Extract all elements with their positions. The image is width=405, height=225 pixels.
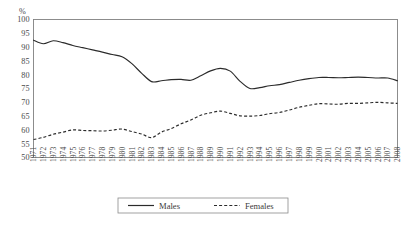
x-axis-tick-label: 1981	[128, 147, 137, 162]
plot-area-frame	[34, 20, 398, 158]
x-axis-tick-label: 1986	[177, 147, 186, 162]
x-axis-tick-label: 1974	[59, 147, 68, 162]
y-axis-tick-label: 75	[21, 84, 29, 93]
y-axis-tick-label: 100	[17, 15, 29, 24]
x-axis-tick-label: 2007	[383, 147, 392, 162]
legend-label-males: Males	[159, 201, 181, 211]
x-axis-tick-label: 1996	[275, 147, 284, 162]
x-axis-tick-label: 1971	[29, 147, 38, 162]
x-axis-tick-label: 1980	[118, 147, 127, 162]
x-axis-tick-label: 2003	[344, 147, 353, 162]
chart-legend: MalesFemales	[118, 198, 288, 213]
x-axis-tick-label: 1979	[108, 147, 117, 162]
x-axis-tick-label: 2000	[315, 147, 324, 162]
x-axis-tick-labels: 1971197219731974197519761977197819791980…	[29, 147, 402, 162]
legend-label-females: Females	[245, 201, 274, 211]
x-axis-tick-label: 1977	[88, 147, 97, 162]
chart-container: 50556065707580859095100 1971197219731974…	[0, 0, 405, 225]
x-axis-tick-label: 2005	[364, 147, 373, 162]
x-axis-tick-label: 1993	[246, 147, 255, 162]
y-axis-tick-label: 95	[21, 29, 29, 38]
x-axis-tick-label: 1978	[98, 147, 107, 162]
x-axis-tick-label: 2008	[393, 147, 402, 162]
y-axis-tick-label: 70	[21, 98, 29, 107]
x-axis-tick-label: 1982	[137, 147, 146, 162]
y-axis-tick-label: 80	[21, 71, 29, 80]
x-axis-tick-label: 2002	[334, 147, 343, 162]
x-axis-tick-label: 1975	[69, 147, 78, 162]
x-axis-tick-label: 1998	[295, 147, 304, 162]
x-axis-tick-label: 1983	[147, 147, 156, 162]
y-axis-tick-label: 60	[21, 126, 29, 135]
x-axis-tick-label: 1973	[49, 147, 58, 162]
x-axis-tick-label: 1995	[265, 147, 274, 162]
x-axis-tick-label: 1985	[167, 147, 176, 162]
x-axis-tick-label: 1992	[236, 147, 245, 162]
x-axis-tick-label: 1997	[285, 147, 294, 162]
x-axis-tick-label: 1976	[78, 147, 87, 162]
x-axis-tick-label: 1988	[196, 147, 205, 162]
y-axis-tick-label: 85	[21, 57, 29, 66]
x-axis-tick-label: 1987	[187, 147, 196, 162]
x-axis-tick-label: 1984	[157, 147, 166, 162]
y-axis-unit-label: %	[19, 7, 26, 16]
x-axis-tick-label: 2006	[374, 147, 383, 162]
x-axis-tick-label: 1972	[39, 147, 48, 162]
x-axis-tick-label: 1989	[206, 147, 215, 162]
y-axis-tick-labels: 50556065707580859095100	[17, 15, 29, 162]
x-axis-tick-label: 2004	[354, 147, 363, 162]
y-axis-tick-label: 65	[21, 112, 29, 121]
line-chart: 50556065707580859095100 1971197219731974…	[0, 0, 405, 225]
x-axis-tick-label: 1999	[305, 147, 314, 162]
x-axis-tick-label: 1994	[255, 147, 264, 162]
y-axis-tick-label: 90	[21, 43, 29, 52]
x-axis-tick-label: 2001	[324, 147, 333, 162]
x-axis-tick-label: 1991	[226, 147, 235, 162]
x-axis-tick-label: 1990	[216, 147, 225, 162]
